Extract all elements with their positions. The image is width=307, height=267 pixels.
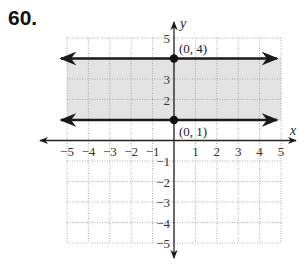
x-tick-label: 5 <box>278 144 285 159</box>
point <box>170 116 178 124</box>
x-tick-label: 2 <box>214 144 221 159</box>
graph: xy−5−4−3−2−112345532−1−2−3−4−5(0, 4)(0, … <box>0 0 307 267</box>
x-tick-label: −5 <box>60 144 74 159</box>
y-tick-label: 3 <box>164 72 171 87</box>
x-tick-label: −2 <box>124 144 138 159</box>
y-tick-label: −5 <box>156 236 170 251</box>
x-axis-label: x <box>289 123 297 138</box>
x-tick-label: 4 <box>256 144 263 159</box>
y-tick-label: −4 <box>156 216 170 231</box>
y-tick-label: −2 <box>156 175 170 190</box>
y-tick-label: −3 <box>156 195 170 210</box>
point <box>170 54 178 62</box>
y-tick-label: 2 <box>164 93 171 108</box>
x-tick-label: −3 <box>103 144 117 159</box>
y-tick-label: −1 <box>156 154 170 169</box>
point-label: (0, 4) <box>179 41 207 56</box>
y-tick-label: 5 <box>164 31 171 46</box>
x-tick-label: 3 <box>235 144 242 159</box>
x-tick-label: −4 <box>81 144 95 159</box>
x-tick-label: 1 <box>192 144 199 159</box>
y-axis-label: y <box>178 16 187 31</box>
point-label: (0, 1) <box>179 124 207 139</box>
